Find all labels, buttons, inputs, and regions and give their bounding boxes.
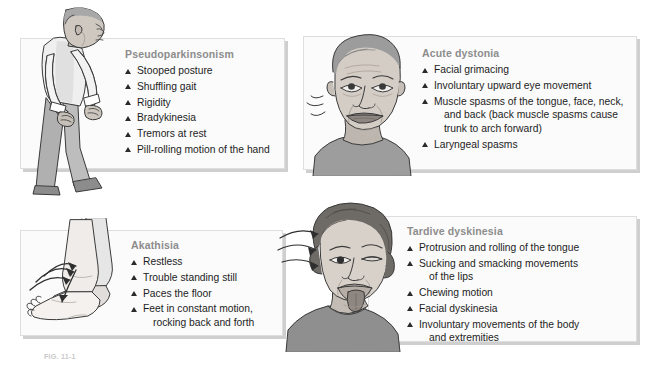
- triangle-up-icon: [125, 100, 131, 105]
- triangle-up-icon: [407, 246, 413, 251]
- list-item: Muscle spasms of the tongue, face, neck,…: [422, 95, 628, 136]
- figure-caption: FIG. 11-1: [44, 352, 76, 361]
- symptom-list-tardive-dyskinesia: Protrusion and rolling of the tongue Suc…: [407, 241, 630, 345]
- symptom-text: Rigidity: [137, 96, 278, 110]
- symptom-text: Bradykinesia: [137, 111, 278, 125]
- triangle-up-icon: [131, 291, 137, 296]
- panel-tardive-dyskinesia: Tardive dyskinesia Protrusion and rollin…: [368, 216, 637, 342]
- list-item: Facial grimacing: [422, 63, 628, 77]
- symptom-line: Feet in constant motion,: [143, 303, 253, 314]
- list-item: Chewing motion: [407, 286, 630, 300]
- triangle-up-icon: [407, 261, 413, 266]
- symptom-text: Involuntary upward eye movement: [434, 79, 628, 93]
- symptom-text: Protrusion and rolling of the tongue: [419, 241, 630, 255]
- panel-akathisia-body: Akathisia Restless Trouble standing stil…: [131, 231, 282, 335]
- symptom-list-acute-dystonia: Facial grimacing Involuntary upward eye …: [422, 63, 628, 151]
- triangle-up-icon: [422, 68, 428, 73]
- symptom-line: trunk to arch forward): [434, 122, 628, 136]
- panel-acute-dystonia-body: Acute dystonia Facial grimacing Involunt…: [422, 37, 636, 169]
- panel-title-akathisia: Akathisia: [131, 239, 276, 251]
- symptom-line: Involuntary movements of the body: [419, 319, 579, 330]
- list-item: Pill-rolling motion of the hand: [125, 143, 278, 157]
- list-item: Protrusion and rolling of the tongue: [407, 241, 630, 255]
- triangle-up-icon: [125, 84, 131, 89]
- triangle-up-icon: [125, 147, 131, 152]
- panel-pseudoparkinsonism-body: Pseudoparkinsonism Stooped posture Shuff…: [125, 39, 284, 168]
- triangle-up-icon: [407, 322, 413, 327]
- symptom-text: Feet in constant motion, rocking back an…: [143, 302, 276, 329]
- symptom-text: Tremors at rest: [137, 127, 278, 141]
- symptom-text: Laryngeal spasms: [434, 138, 628, 152]
- list-item: Laryngeal spasms: [422, 138, 628, 152]
- symptom-text: Stooped posture: [137, 64, 278, 78]
- symptom-text: Paces the floor: [143, 287, 276, 301]
- triangle-up-icon: [131, 307, 137, 312]
- list-item: Involuntary movements of the body and ex…: [407, 318, 630, 345]
- triangle-up-icon: [131, 260, 137, 265]
- symptom-line: and back (back muscle spasms cause: [434, 108, 628, 122]
- triangle-up-icon: [125, 116, 131, 121]
- panel-pseudoparkinsonism: Pseudoparkinsonism Stooped posture Shuff…: [20, 38, 285, 169]
- symptom-text: Facial grimacing: [434, 63, 628, 77]
- triangle-up-icon: [407, 291, 413, 296]
- symptom-list-akathisia: Restless Trouble standing still Paces th…: [131, 255, 276, 330]
- triangle-up-icon: [407, 306, 413, 311]
- symptom-text: Restless: [143, 255, 276, 269]
- symptom-text: Pill-rolling motion of the hand: [137, 143, 278, 157]
- list-item: Paces the floor: [131, 287, 276, 301]
- list-item: Stooped posture: [125, 64, 278, 78]
- triangle-up-icon: [125, 69, 131, 74]
- list-item: Tremors at rest: [125, 127, 278, 141]
- list-item: Bradykinesia: [125, 111, 278, 125]
- symptom-text: Shuffling gait: [137, 80, 278, 94]
- triangle-up-icon: [131, 275, 137, 280]
- list-item: Trouble standing still: [131, 271, 276, 285]
- panel-tardive-dyskinesia-body: Tardive dyskinesia Protrusion and rollin…: [407, 217, 636, 341]
- symptom-line: of the lips: [419, 270, 630, 284]
- triangle-up-icon: [422, 99, 428, 104]
- symptom-text: Facial dyskinesia: [419, 302, 630, 316]
- symptom-text: Chewing motion: [419, 286, 630, 300]
- list-item: Restless: [131, 255, 276, 269]
- panel-title-tardive-dyskinesia: Tardive dyskinesia: [407, 225, 630, 237]
- symptom-list-pseudoparkinsonism: Stooped posture Shuffling gait Rigidity …: [125, 64, 278, 157]
- triangle-up-icon: [422, 83, 428, 88]
- symptom-text: Muscle spasms of the tongue, face, neck,…: [434, 95, 628, 136]
- triangle-up-icon: [125, 132, 131, 137]
- triangle-up-icon: [422, 142, 428, 147]
- list-item: Rigidity: [125, 96, 278, 110]
- symptom-line: and extremities: [419, 331, 630, 345]
- symptom-text: Trouble standing still: [143, 271, 276, 285]
- panel-title-acute-dystonia: Acute dystonia: [422, 47, 628, 59]
- panel-title-pseudoparkinsonism: Pseudoparkinsonism: [125, 48, 278, 60]
- panel-acute-dystonia: Acute dystonia Facial grimacing Involunt…: [303, 36, 637, 170]
- symptom-line: Sucking and smacking movements: [419, 258, 578, 269]
- panel-akathisia: Akathisia Restless Trouble standing stil…: [20, 230, 283, 336]
- symptom-text: Sucking and smacking movements of the li…: [419, 257, 630, 284]
- list-item: Facial dyskinesia: [407, 302, 630, 316]
- symptom-line: rocking back and forth: [143, 316, 276, 330]
- symptom-line: Muscle spasms of the tongue, face, neck,: [434, 96, 623, 107]
- list-item: Involuntary upward eye movement: [422, 79, 628, 93]
- list-item: Sucking and smacking movements of the li…: [407, 257, 630, 284]
- list-item: Feet in constant motion, rocking back an…: [131, 302, 276, 329]
- list-item: Shuffling gait: [125, 80, 278, 94]
- symptom-text: Involuntary movements of the body and ex…: [419, 318, 630, 345]
